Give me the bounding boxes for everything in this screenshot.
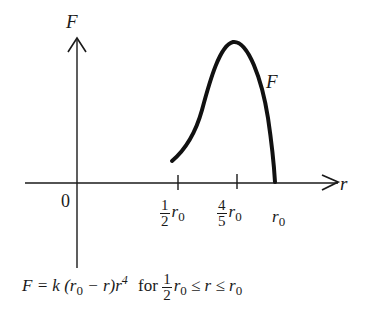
figure: F r F 0 12r0 45r0 r0 F = k (r0 − r)r4 fo… [0,0,365,319]
tick-label-half-r0: 12r0 [160,198,185,229]
tick-label-r0: r0 [272,208,285,225]
force-curve [172,42,275,182]
origin-label: 0 [61,192,70,210]
tick-label-four-fifths-r0: 45r0 [217,198,242,229]
equation-caption: F = k (r0 − r)r4 for 12r0 ≤ r ≤ r0 [22,272,242,303]
y-axis-label: F [66,12,78,31]
x-axis-label: r [340,174,347,193]
curve-label: F [266,72,278,91]
